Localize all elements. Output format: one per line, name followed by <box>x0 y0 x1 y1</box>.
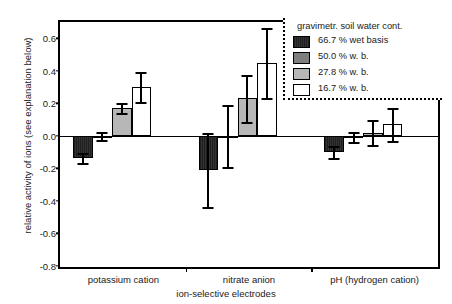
zero-line <box>60 136 438 137</box>
legend-swatch-1 <box>293 52 310 64</box>
error-bar-0-3 <box>140 72 142 101</box>
y-tick-label: 0.6 <box>43 33 56 44</box>
error-cap-0-1-high <box>97 132 108 134</box>
error-bar-1-2 <box>246 75 248 122</box>
error-cap-0-0-low <box>77 163 88 165</box>
x-axis-title: ion-selective electrodes <box>176 288 275 299</box>
error-cap-2-0-low <box>329 158 340 160</box>
y-tick-label: 0.2 <box>43 98 56 109</box>
error-bar-1-3 <box>266 28 268 98</box>
error-cap-2-0-high <box>329 146 340 148</box>
error-cap-1-0-low <box>203 207 214 209</box>
error-cap-0-0-high <box>77 153 88 155</box>
legend-label-1: 50.0 % w. b. <box>318 51 369 61</box>
error-bar-1-0 <box>207 133 209 208</box>
error-cap-0-3-high <box>136 72 147 74</box>
error-cap-1-2-low <box>242 122 253 124</box>
error-bar-2-3 <box>392 108 394 141</box>
y-tick-mark <box>56 70 60 71</box>
error-cap-1-0-high <box>203 133 214 135</box>
error-cap-0-2-low <box>116 113 127 115</box>
error-cap-2-1-high <box>348 132 359 134</box>
legend-swatch-2 <box>293 68 310 80</box>
y-tick-mark <box>56 200 60 201</box>
y-tick-label: -0.2 <box>40 163 56 174</box>
legend-title: gravimetr. soil water cont. <box>297 21 402 31</box>
y-tick-mark <box>56 233 60 234</box>
x-group-separator <box>311 267 312 272</box>
legend-swatch-3 <box>293 84 310 96</box>
error-cap-2-3-low <box>387 141 398 143</box>
y-tick-label: -0.4 <box>40 195 56 206</box>
legend-label-0: 66.7 % wet basis <box>318 35 388 45</box>
y-tick-label: 0.0 <box>43 130 56 141</box>
error-cap-2-3-high <box>387 108 398 110</box>
y-axis-title: relative activity of ions (see explanati… <box>22 21 33 251</box>
x-category-label-0: potassium cation <box>88 274 159 285</box>
y-tick-label: 0.4 <box>43 65 56 76</box>
error-cap-2-1-low <box>348 142 359 144</box>
error-bar-1-1 <box>227 105 229 167</box>
chart-legend: gravimetr. soil water cont. 66.7 % wet b… <box>283 18 442 100</box>
legend-label-3: 16.7 % w. b. <box>318 83 369 93</box>
error-cap-0-3-low <box>136 102 147 104</box>
legend-label-2: 27.8 % w. b. <box>318 67 369 77</box>
legend-swatch-0 <box>293 36 310 48</box>
y-tick-mark <box>56 38 60 39</box>
x-category-label-2: pH (hydrogen cation) <box>330 274 419 285</box>
error-cap-2-2-low <box>368 145 379 147</box>
x-category-label-1: nitrate anion <box>223 274 275 285</box>
error-cap-1-2-high <box>242 75 253 77</box>
error-cap-0-1-low <box>97 140 108 142</box>
x-group-separator <box>186 267 187 272</box>
y-tick-mark <box>56 265 60 266</box>
y-tick-mark <box>56 168 60 169</box>
error-cap-0-2-high <box>116 103 127 105</box>
error-bar-2-2 <box>372 120 374 144</box>
y-tick-label: -0.6 <box>40 228 56 239</box>
error-cap-2-2-high <box>368 120 379 122</box>
error-cap-1-1-high <box>222 105 233 107</box>
error-cap-1-1-low <box>222 167 233 169</box>
error-cap-1-3-high <box>261 28 272 30</box>
y-tick-label: -0.8 <box>40 261 56 272</box>
error-cap-1-3-low <box>261 98 272 100</box>
chart-figure: relative activity of ions (see explanati… <box>0 0 452 304</box>
y-tick-mark <box>56 103 60 104</box>
